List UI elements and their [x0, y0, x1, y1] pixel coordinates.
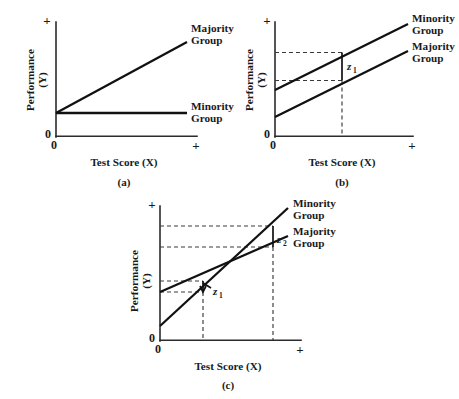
panel-c-x-axis-title: Test Score (X) [194, 360, 261, 373]
panel-b-minority-label: Minority Group [412, 12, 455, 36]
panel-b-x-axis-title: Test Score (X) [308, 156, 375, 169]
panel-b-z1-label-subscript: 1 [353, 66, 357, 75]
figure-canvas: + 0 0 + Performance (Y) Test Score (X) (… [0, 0, 459, 399]
panel-a-minority-label-line2: Group [191, 112, 223, 124]
panel-c-y-axis-title-line2: (Y) [140, 273, 153, 289]
panel-c-label: (c) [222, 379, 235, 392]
panel-a-y-max-tick: + [43, 13, 50, 28]
panel-c-x-origin-tick: 0 [155, 342, 161, 356]
panel-b: + 0 0 + Performance (Y) Test Score (X) (… [243, 12, 455, 189]
panel-c: + 0 0 + Performance (Y) Test Score (X) (… [128, 197, 336, 392]
panel-c-minority-label: Minority Group [293, 197, 336, 221]
panel-a: + 0 0 + Performance (Y) Test Score (X) (… [24, 13, 234, 189]
panel-b-label: (b) [335, 176, 349, 189]
panel-a-majority-line [56, 42, 187, 113]
panel-a-majority-label: Majority Group [191, 22, 234, 46]
panel-b-z1-label: z 1 [346, 60, 357, 75]
panel-c-z2-label-symbol: z [276, 233, 282, 245]
panel-c-z2-label-subscript: 2 [283, 239, 287, 248]
panel-c-x-max-tick: + [296, 342, 303, 357]
panel-b-minority-label-line2: Group [412, 24, 444, 36]
panel-b-x-max-tick: + [408, 138, 415, 153]
panel-c-y-axis-title: Performance (Y) [128, 250, 153, 312]
panel-b-y-axis-title: Performance (Y) [243, 49, 268, 111]
panel-a-label: (a) [118, 176, 131, 189]
panel-c-y-axis-title-line1: Performance [128, 250, 140, 312]
panel-c-majority-label: Majority Group [293, 225, 336, 249]
panel-c-z1-label-symbol: z [212, 285, 218, 297]
panel-c-z1-label: z 1 [212, 285, 223, 300]
panel-c-y-max-tick: + [148, 197, 155, 212]
panel-a-minority-label: Minority Group [191, 100, 234, 124]
panel-c-minority-label-line2: Group [293, 209, 325, 221]
panel-c-z2-label: z 2 [276, 233, 287, 248]
panel-c-minority-label-line1: Minority [293, 197, 336, 209]
panel-a-x-origin-tick: 0 [51, 138, 57, 152]
panel-b-majority-label: Majority Group [412, 40, 455, 64]
panel-b-y-max-tick: + [263, 13, 270, 28]
panel-a-y-axis-title: Performance (Y) [24, 49, 49, 111]
panel-b-y-axis-title-line1: Performance [243, 49, 255, 111]
panel-b-majority-label-line1: Majority [412, 40, 455, 52]
panel-b-minority-label-line1: Minority [412, 12, 455, 24]
panel-a-y-axis-title-line1: Performance [24, 49, 36, 111]
panel-b-y-axis-title-line2: (Y) [255, 72, 268, 88]
panel-a-x-max-tick: + [192, 138, 199, 153]
panel-c-majority-label-line2: Group [293, 237, 325, 249]
panel-c-majority-line [160, 236, 288, 292]
panel-b-majority-label-line2: Group [412, 52, 444, 64]
panel-b-x-origin-tick: 0 [270, 138, 276, 152]
panel-b-z1-label-symbol: z [346, 60, 352, 72]
panel-a-majority-label-line1: Majority [191, 22, 234, 34]
panel-c-z1-label-subscript: 1 [219, 291, 223, 300]
panel-c-majority-label-line1: Majority [293, 225, 336, 237]
panel-a-majority-label-line2: Group [191, 34, 223, 46]
panel-a-x-axis-title: Test Score (X) [90, 156, 157, 169]
panel-a-y-axis-title-line2: (Y) [36, 72, 49, 88]
panel-a-minority-label-line1: Minority [191, 100, 234, 112]
